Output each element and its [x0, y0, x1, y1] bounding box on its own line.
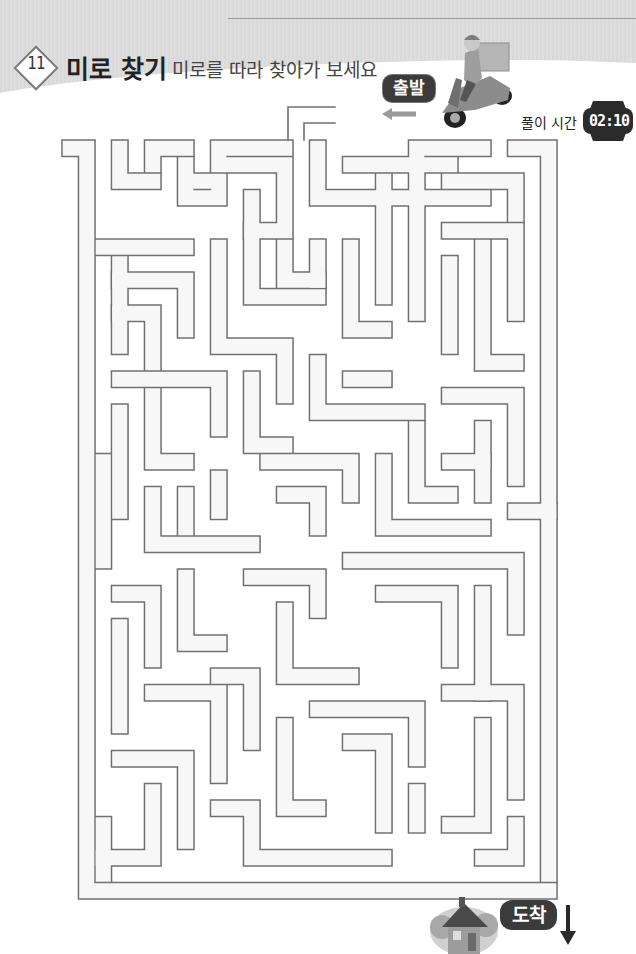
delivery-scooter-icon [420, 18, 520, 128]
maze[interactable] [0, 0, 636, 954]
start-arrow-icon [382, 108, 418, 120]
timer-label: 풀이 시간 [521, 112, 577, 132]
end-arrow-icon [560, 905, 576, 945]
timer-value: 02:10 [584, 112, 634, 130]
end-badge: 도착 [500, 900, 557, 930]
house-icon [428, 893, 500, 954]
